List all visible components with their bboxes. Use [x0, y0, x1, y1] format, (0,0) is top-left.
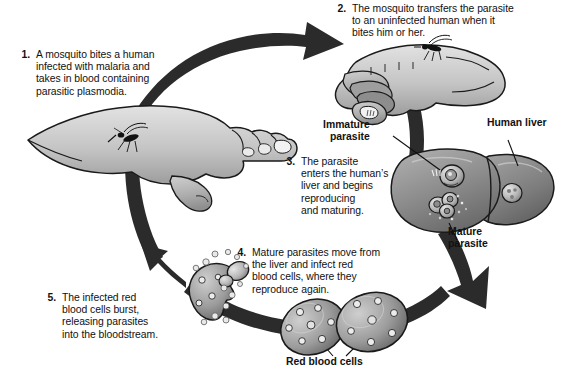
label-immature-parasite-line-1: Immature: [323, 119, 370, 131]
step-2-text: The mosquito transfers the parasite to a…: [352, 3, 514, 40]
step-1-line-3: takes in blood containing: [36, 73, 154, 85]
step-3-number: 3.: [281, 156, 295, 168]
step-4-line-4: reproduce again.: [252, 284, 380, 296]
step-1-number: 1.: [16, 49, 30, 61]
immature-parasite-cell: [440, 165, 464, 187]
human-liver-organ: [391, 149, 554, 232]
step-5-number: 5.: [42, 292, 56, 304]
label-red-blood-cells: Red blood cells: [286, 356, 363, 368]
step-1-line-1: A mosquito bites a human: [36, 49, 154, 61]
step-4-number: 4.: [232, 247, 246, 259]
step-2-number: 2.: [332, 3, 346, 15]
step-4-line-2: the liver and infect red: [252, 259, 380, 271]
label-mature-parasite-line-2: parasite: [448, 238, 488, 250]
step-4: 4. Mature parasites move from the liver …: [232, 247, 380, 296]
step-5: 5. The infected red blood cells burst, r…: [42, 292, 158, 341]
step-3: 3. The parasite enters the human’s liver…: [281, 156, 388, 217]
step-3-line-2: enters the human’s: [301, 168, 388, 180]
step-3-line-4: reproducing: [301, 193, 388, 205]
label-human-liver-line-1: Human liver: [487, 117, 546, 129]
step-1-text: A mosquito bites a human infected with m…: [36, 49, 154, 98]
step-1-line-2: infected with malaria and: [36, 61, 154, 73]
step-3-line-3: liver and begins: [301, 180, 388, 192]
step-2-line-1: The mosquito transfers the parasite: [352, 3, 514, 15]
step-4-line-1: Mature parasites move from: [252, 247, 380, 259]
label-mature-parasite: Mature parasite: [448, 226, 488, 250]
liver-right-lobe-parasite: [502, 184, 522, 203]
step-1: 1. A mosquito bites a human infected wit…: [16, 49, 154, 98]
step-4-line-3: blood cells, where they: [252, 271, 380, 283]
step-4-text: Mature parasites move from the liver and…: [252, 247, 380, 296]
step-2: 2. The mosquito transfers the parasite t…: [332, 3, 514, 40]
malaria-life-cycle-diagram: 1. A mosquito bites a human infected wit…: [0, 0, 576, 381]
label-mature-parasite-line-1: Mature: [448, 226, 488, 238]
step-1-line-4: parasitic plasmodia.: [36, 86, 154, 98]
step-3-line-1: The parasite: [301, 156, 388, 168]
label-immature-parasite: Immature parasite: [323, 119, 370, 143]
step-5-line-2: blood cells burst,: [62, 304, 158, 316]
step-2-line-3: bites him or her.: [352, 27, 514, 39]
label-immature-parasite-line-2: parasite: [323, 131, 370, 143]
step-2-line-2: to an uninfected human when it: [352, 15, 514, 27]
step-3-text: The parasite enters the human’s liver an…: [301, 156, 388, 217]
step-5-line-3: releasing parasites: [62, 316, 158, 328]
hand-uninfected-with-mosquito: [335, 35, 505, 124]
step-3-line-5: and maturing.: [301, 205, 388, 217]
step-5-line-1: The infected red: [62, 292, 158, 304]
label-red-blood-cells-line-1: Red blood cells: [286, 356, 363, 368]
hand-infected-with-mosquito: [28, 106, 297, 211]
step-5-text: The infected red blood cells burst, rele…: [62, 292, 158, 341]
red-blood-cells-pair: [272, 284, 414, 364]
step-5-line-4: into the bloodstream.: [62, 329, 158, 341]
label-human-liver: Human liver: [487, 117, 546, 129]
